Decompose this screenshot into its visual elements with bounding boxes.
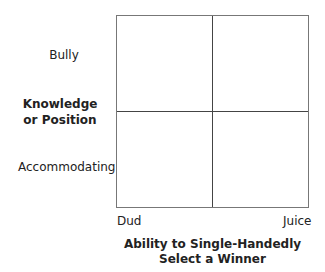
x-axis-title-line2: Select a Winner [116, 252, 309, 267]
x-left-label: Dud [117, 214, 141, 228]
x-right-label: Juice [283, 214, 311, 228]
y-axis-title-line1: Knowledge [6, 96, 114, 112]
horizontal-divider [117, 111, 308, 112]
y-axis-title: Knowledge or Position [6, 96, 114, 128]
y-bottom-label: Accommodating [18, 160, 116, 174]
y-axis-title-line2: or Position [6, 112, 114, 128]
y-top-label: Bully [10, 48, 118, 62]
quadrant-grid [116, 15, 309, 208]
x-axis-title: Ability to Single-Handedly Select a Winn… [116, 237, 309, 267]
x-axis-title-line1: Ability to Single-Handedly [116, 237, 309, 252]
